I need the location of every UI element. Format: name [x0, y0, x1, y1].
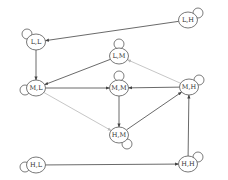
- node-mh: M,H: [180, 79, 199, 95]
- node-label: H,H: [181, 160, 195, 168]
- node-label: M,L: [29, 84, 43, 92]
- node-hm: H,M: [110, 127, 129, 143]
- node-label: H,M: [112, 131, 127, 139]
- node-label: M,M: [111, 84, 127, 92]
- node-lm: L,M: [110, 48, 129, 64]
- node-ll: L,L: [27, 34, 46, 50]
- node-label: H,L: [30, 161, 43, 169]
- node-hh: H,H: [179, 156, 198, 172]
- node-mm: M,M: [110, 80, 129, 96]
- edge-hm-to-mh: [126, 92, 181, 130]
- state-diagram: L,HL,LL,MM,LM,MM,HH,MH,LH,H: [0, 0, 228, 180]
- edge-lm-to-ml: [45, 59, 111, 84]
- node-label: L,M: [112, 52, 125, 60]
- node-hl: H,L: [27, 157, 46, 173]
- node-ml: M,L: [27, 80, 46, 96]
- node-label: L,H: [182, 16, 194, 24]
- edge-hl-to-hh: [45, 164, 178, 165]
- edge-lh-to-ll: [45, 21, 178, 40]
- node-lh: L,H: [179, 12, 198, 28]
- node-label: M,H: [182, 83, 197, 91]
- self-loop-mm: [114, 71, 124, 81]
- edge-hh-to-mh: [188, 95, 189, 156]
- edge-mh-to-mm: [128, 87, 179, 88]
- nodes-layer: L,HL,LL,MM,LM,MM,HH,MH,LH,H: [27, 12, 199, 173]
- self-loop-lm: [114, 39, 124, 49]
- edge-mh-to-lm: [127, 60, 180, 84]
- edge-ml-to-hm: [44, 92, 111, 130]
- node-label: L,L: [31, 38, 42, 46]
